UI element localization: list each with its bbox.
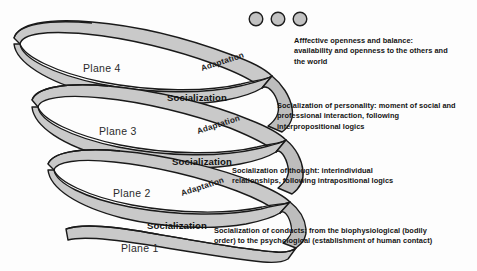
plane-label-2: Plane 2 xyxy=(113,187,151,199)
plane-label-1: Plane 1 xyxy=(121,242,159,254)
description-plane-4: Afffective openness and balance: availab… xyxy=(294,36,474,67)
description-plane-1: Socialization of conducts: from the biop… xyxy=(214,226,476,247)
description-plane-2: Socialization of thought: interindividua… xyxy=(232,166,475,187)
plane-label-3: Plane 3 xyxy=(99,125,137,137)
node-dot-2 xyxy=(271,12,285,26)
node-dot-3 xyxy=(293,12,307,26)
socialization-label-2: Socialization xyxy=(172,156,232,167)
node-dot-1 xyxy=(249,12,263,26)
node-dots-group xyxy=(249,12,307,26)
socialization-label-1: Socialization xyxy=(147,220,207,231)
plane-label-4: Plane 4 xyxy=(83,62,121,74)
diagram-canvas: Plane 4 Plane 3 Plane 2 Plane 1 Adaptati… xyxy=(0,0,477,271)
description-plane-3: Socialization of personality: moment of … xyxy=(277,101,475,132)
socialization-label-3: Socialization xyxy=(167,92,227,103)
